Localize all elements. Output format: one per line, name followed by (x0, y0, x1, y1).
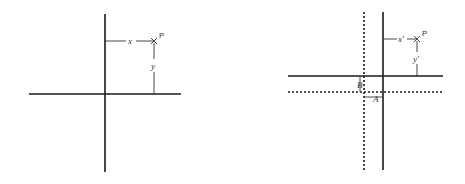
left-y-label: y (150, 61, 155, 71)
right-y-label: y' (412, 54, 420, 64)
left-diagram: x y P (29, 14, 181, 172)
right-a-label: A (372, 94, 379, 104)
right-b-label: B (357, 80, 363, 90)
right-diagram: x' y' P B A (288, 12, 443, 170)
left-x-label: x (127, 36, 132, 46)
right-x-label: x' (397, 34, 405, 44)
right-point-p-label: P (422, 29, 427, 38)
coordinate-diagrams: x y P x' y' P B A (0, 0, 465, 184)
left-point-p-label: P (159, 31, 164, 40)
